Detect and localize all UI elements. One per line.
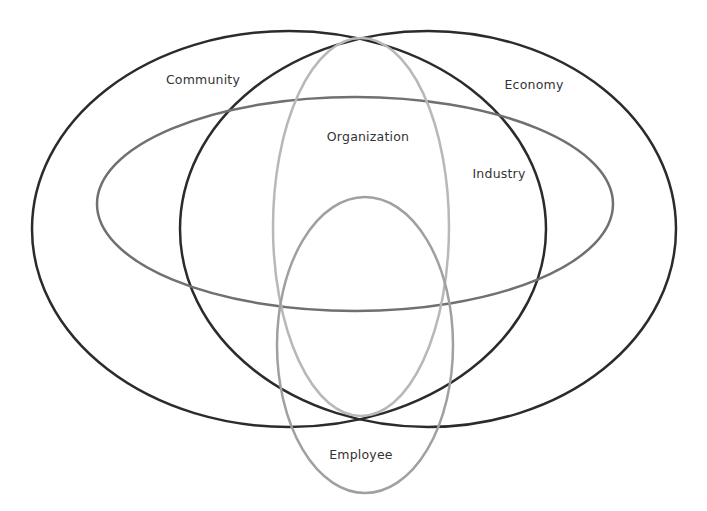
industry-label: Industry [472,166,525,181]
community-ellipse [32,31,546,427]
organization-label: Organization [327,129,409,144]
community-label: Community [166,72,240,87]
economy-label: Economy [505,77,564,92]
employee-label: Employee [329,447,393,462]
venn-diagram [0,0,707,511]
organization-ellipse [273,38,449,416]
economy-ellipse [180,31,676,427]
